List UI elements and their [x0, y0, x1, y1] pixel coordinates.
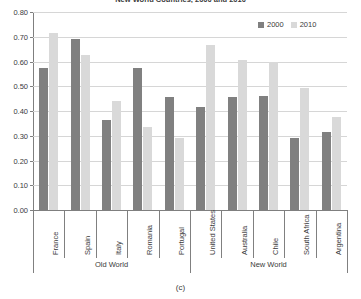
y-axis-tick-mark: [30, 12, 33, 13]
x-axis-category-label: Italy: [115, 241, 123, 255]
y-axis-tick-label: 0.00: [2, 206, 28, 215]
plot-area: [33, 12, 347, 210]
bar[interactable]: [228, 97, 237, 210]
y-axis-tick-label: 0.10: [2, 181, 28, 190]
x-axis-category-label: France: [52, 232, 60, 255]
bar[interactable]: [39, 68, 48, 210]
bar[interactable]: [143, 127, 152, 210]
figure: New World Countries, 2000 and 2010 2000 …: [0, 0, 361, 299]
bar[interactable]: [102, 120, 111, 210]
group-separator: [347, 211, 348, 273]
figure-caption: (c): [0, 283, 361, 292]
y-axis-tick-label: 0.40: [2, 107, 28, 116]
bar[interactable]: [300, 88, 309, 211]
bar[interactable]: [206, 45, 215, 210]
bar[interactable]: [332, 117, 341, 210]
x-axis-category-label: United States: [209, 210, 217, 255]
y-axis-tick-label: 0.80: [2, 8, 28, 17]
group-label: New World: [190, 260, 347, 269]
bar[interactable]: [259, 96, 268, 210]
bar[interactable]: [49, 33, 58, 210]
bar[interactable]: [238, 60, 247, 210]
x-axis-tick-mark: [221, 211, 222, 258]
bar[interactable]: [290, 138, 299, 210]
y-axis-tick-mark: [30, 136, 33, 137]
bar[interactable]: [196, 107, 205, 210]
x-axis-tick-mark: [253, 211, 254, 258]
x-axis-category-label: South Africa: [303, 215, 311, 255]
x-axis-tick-mark: [284, 211, 285, 258]
group-label: Old World: [33, 260, 190, 269]
x-axis-category-label: Australia: [241, 226, 249, 255]
y-axis-tick-mark: [30, 185, 33, 186]
gridline: [33, 12, 347, 13]
y-axis-tick-mark: [30, 37, 33, 38]
x-axis-category-label: Spain: [84, 236, 92, 255]
x-axis-tick-mark: [316, 211, 317, 258]
y-axis-tick-mark: [30, 111, 33, 112]
bar[interactable]: [175, 138, 184, 210]
x-axis-tick-mark: [159, 211, 160, 258]
y-axis-tick-label: 0.20: [2, 157, 28, 166]
y-axis-tick-mark: [30, 86, 33, 87]
x-axis-tick-mark: [127, 211, 128, 258]
x-axis-category-label: Portugal: [178, 227, 186, 255]
bar[interactable]: [112, 101, 121, 210]
gridline: [33, 37, 347, 38]
bar[interactable]: [269, 62, 278, 211]
bar[interactable]: [81, 55, 90, 210]
y-axis-tick-label: 0.30: [2, 132, 28, 141]
bar[interactable]: [165, 97, 174, 210]
bar[interactable]: [133, 68, 142, 210]
y-axis-tick-label: 0.70: [2, 33, 28, 42]
x-axis-category-label: Chile: [272, 238, 280, 255]
chart-title: New World Countries, 2000 and 2010: [0, 0, 361, 3]
y-axis-tick-label: 0.60: [2, 58, 28, 67]
y-axis-tick-mark: [30, 161, 33, 162]
y-axis-tick-label: 0.50: [2, 82, 28, 91]
x-axis-category-label: Argentina: [335, 223, 343, 255]
x-axis-tick-mark: [64, 211, 65, 258]
bar[interactable]: [322, 132, 331, 210]
y-axis-tick-mark: [30, 62, 33, 63]
bar[interactable]: [71, 39, 80, 210]
x-axis-tick-mark: [96, 211, 97, 258]
x-axis-category-label: Romania: [146, 225, 154, 255]
